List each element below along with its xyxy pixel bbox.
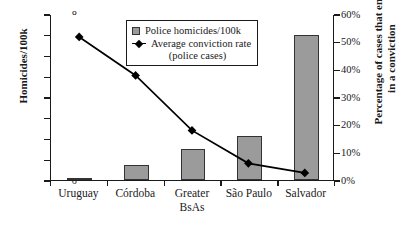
x-axis-tick-mark	[334, 181, 335, 186]
y-axis-right-tick-label: 0%	[341, 176, 385, 187]
y-axis-right-tick-label: 50%	[341, 37, 385, 48]
y-axis-right-tick-label: 20%	[341, 120, 385, 131]
legend-item-line: Average conviction rate	[132, 37, 251, 50]
y-axis-right-tick-mark	[334, 125, 340, 126]
legend-item-bars: Police homicides/100k	[132, 24, 251, 37]
y-axis-right-tick-label: 30%	[341, 93, 385, 104]
chart-legend: Police homicides/100k Average conviction…	[126, 20, 258, 66]
legend-sublabel-line: (police cases)	[132, 50, 251, 61]
x-axis-tick-mark	[277, 181, 278, 186]
line-data-point-marker	[244, 159, 253, 168]
y-axis-right-tick-mark	[334, 42, 340, 43]
x-axis-category-label: BsAs	[158, 201, 227, 213]
y-axis-left-title: Homicides/100k	[17, 11, 29, 121]
y-axis-right-tick-mark	[334, 70, 340, 71]
legend-label-bars: Police homicides/100k	[145, 25, 241, 36]
chart-figure: Homicides/100k Percentage of cases that …	[0, 0, 416, 226]
y-axis-right-tick-mark	[334, 14, 340, 15]
x-axis-category-label: Salvador	[271, 187, 340, 199]
x-axis-tick-mark	[164, 181, 165, 186]
y-axis-right-tick-label: 10%	[341, 148, 385, 159]
x-axis-tick-mark	[220, 181, 221, 186]
y-axis-right-tick-mark	[334, 97, 340, 98]
x-axis-tick-mark	[107, 181, 108, 186]
y-axis-right-tick-mark	[334, 153, 340, 154]
y-axis-right-tick-label: 40%	[341, 65, 385, 76]
y-axis-right-title-line2: in a conviction	[385, 24, 397, 92]
x-axis-tick-mark	[50, 181, 51, 186]
legend-label-line: Average conviction rate	[151, 38, 251, 49]
line-data-point-marker	[300, 169, 309, 178]
legend-line-diamond-icon	[132, 40, 146, 48]
legend-swatch-icon	[132, 27, 140, 35]
y-axis-right-tick-label: 60%	[341, 10, 385, 21]
